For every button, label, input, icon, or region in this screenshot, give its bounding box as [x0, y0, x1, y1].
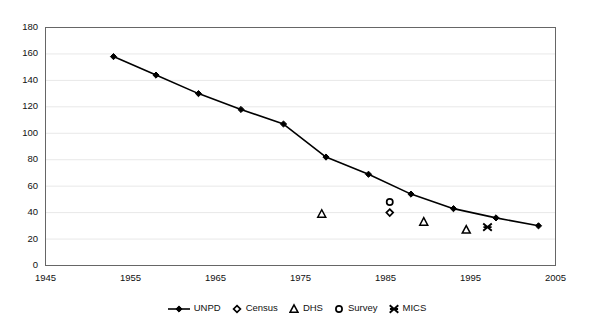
- legend-label-survey: Survey: [348, 302, 378, 313]
- data-point-open-triangle: [318, 210, 326, 217]
- x-tick-1965: 1965: [196, 272, 236, 283]
- legend-label-census: Census: [246, 302, 278, 313]
- legend-item-unpd[interactable]: UNPD: [168, 301, 221, 313]
- legend-item-census[interactable]: Census: [232, 301, 278, 313]
- y-tick-60: 60: [8, 180, 38, 191]
- data-point-filled-diamond: [450, 206, 456, 212]
- legend-label-unpd: UNPD: [194, 302, 221, 313]
- data-point-filled-diamond: [535, 223, 541, 229]
- y-tick-160: 160: [8, 47, 38, 58]
- series-mics: [483, 224, 492, 231]
- data-point-star: [389, 305, 398, 312]
- data-point-open-triangle: [290, 305, 298, 312]
- series-line-unpd: [114, 57, 539, 226]
- legend-line-filled-diamond-icon: [168, 301, 190, 313]
- series-unpd: [110, 53, 541, 228]
- y-tick-40: 40: [8, 206, 38, 217]
- grid-lines: [46, 54, 556, 239]
- series-survey: [387, 199, 393, 205]
- legend-label-dhs: DHS: [303, 302, 323, 313]
- legend-open-circle-icon: [334, 301, 344, 313]
- y-tick-180: 180: [8, 21, 38, 32]
- legend-label-mics: MICS: [403, 302, 427, 313]
- data-point-filled-diamond: [493, 215, 499, 221]
- data-point-filled-diamond: [365, 171, 371, 177]
- data-point-open-triangle: [420, 218, 428, 225]
- data-point-filled-diamond: [195, 91, 201, 97]
- plot-border: [46, 28, 556, 266]
- y-tick-20: 20: [8, 233, 38, 244]
- series-dhs: [318, 210, 470, 233]
- y-tick-120: 120: [8, 100, 38, 111]
- chart-legend: UNPDCensusDHSSurveyMICS: [152, 297, 442, 317]
- series-census: [386, 209, 393, 216]
- data-point-filled-diamond: [153, 72, 159, 78]
- data-point-open-diamond: [233, 306, 240, 313]
- data-point-filled-diamond: [408, 191, 414, 197]
- data-point-open-diamond: [386, 209, 393, 216]
- chart-figure: 020406080100120140160180 194519551965197…: [0, 0, 593, 331]
- x-tick-1985: 1985: [366, 272, 406, 283]
- y-tick-140: 140: [8, 74, 38, 85]
- x-tick-1955: 1955: [111, 272, 151, 283]
- legend-item-mics[interactable]: MICS: [389, 301, 427, 313]
- data-point-star: [483, 224, 492, 231]
- x-tick-1995: 1995: [451, 272, 491, 283]
- data-point-filled-diamond: [176, 306, 182, 312]
- y-tick-0: 0: [8, 259, 38, 270]
- data-point-open-triangle: [462, 226, 470, 233]
- legend-star-icon: [389, 301, 399, 313]
- x-tick-2005: 2005: [536, 272, 576, 283]
- y-tick-100: 100: [8, 127, 38, 138]
- legend-open-triangle-icon: [289, 301, 299, 313]
- y-tick-80: 80: [8, 153, 38, 164]
- legend-item-dhs[interactable]: DHS: [289, 301, 323, 313]
- x-tick-1975: 1975: [281, 272, 321, 283]
- data-point-open-circle: [387, 199, 393, 205]
- x-tick-1945: 1945: [26, 272, 66, 283]
- legend-item-survey[interactable]: Survey: [334, 301, 378, 313]
- data-point-open-circle: [336, 306, 342, 312]
- legend-open-diamond-icon: [232, 301, 242, 313]
